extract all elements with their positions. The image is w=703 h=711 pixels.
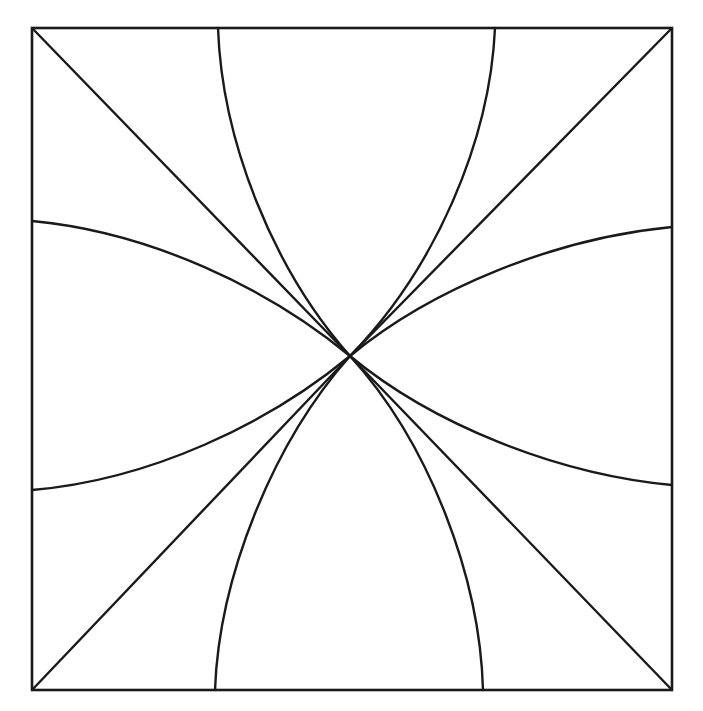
curve-pencil-figure [0, 0, 703, 711]
figure-container [0, 0, 703, 711]
